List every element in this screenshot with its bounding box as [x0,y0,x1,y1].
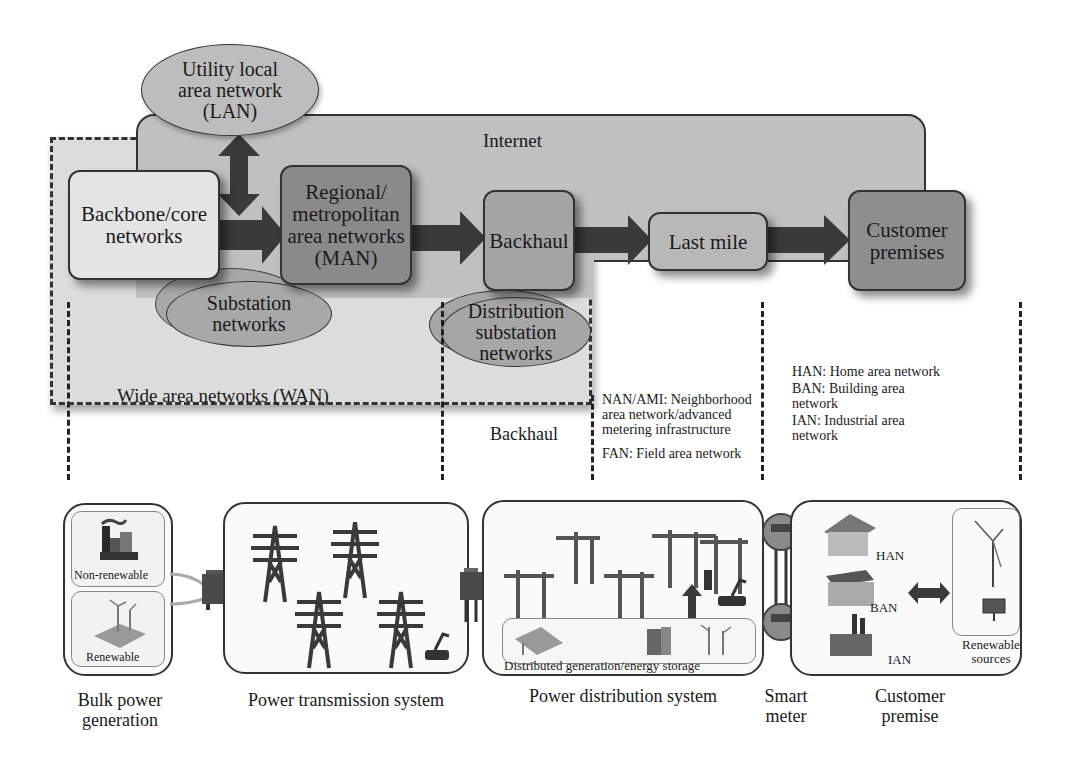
non-renewable-label: Non-renewable [74,568,148,583]
renewable-panel: Renewable [71,591,165,667]
distribution-panel: Distributed generation/energy storage [482,500,764,676]
utility-lan-ellipse: Utility local area network (LAN) [141,44,319,136]
storage-label: Distributed generation/energy storage [504,658,700,674]
renewable-sources-label: Renewable sources [956,638,1026,666]
arrow-right-icon [568,213,654,267]
han-note: HAN: Home area network [792,364,972,379]
backbone-core-node: Backbone/core networks [68,170,220,280]
distribution-substation-ellipse: Distribution substation networks [441,297,591,367]
nan-ami-note: NAN/AMI: Neighborhood area network/advan… [602,392,762,437]
han-label: HAN [876,548,904,564]
last-mile-node: Last mile [648,212,768,271]
arrow-right-icon [404,208,488,268]
backhaul-node: Backhaul [483,190,575,291]
backhaul-label: Backhaul [489,230,568,252]
factory-icon [98,518,138,560]
arrow-up-down-icon [216,134,262,216]
distribution-caption: Power distribution system [508,686,738,706]
wan-label: Wide area networks (WAN) [117,385,329,407]
ban-note: BAN: Building area network [792,381,912,411]
arrow-left-right-icon [908,582,950,604]
customer-premise-caption: Customer premise [850,686,970,726]
transmission-caption: Power transmission system [218,690,474,710]
customer-premises-node: Customer premises [848,190,966,291]
buildings-icon [820,510,880,660]
internet-label: Internet [483,130,542,152]
ban-label: BAN [870,600,897,616]
renewable-sources-panel [952,508,1020,636]
bulk-generation-caption: Bulk power generation [60,690,180,730]
ian-note: IAN: Industrial area network [792,413,912,443]
distributed-generation-icons [511,621,751,661]
backbone-core-label: Backbone/core networks [74,203,214,247]
divider-dashed [591,395,594,480]
distribution-poles-icon [504,514,754,619]
last-mile-label: Last mile [669,231,748,253]
ian-label: IAN [888,652,911,668]
transformer-icon [170,560,226,630]
customer-premise-panel: HAN BAN IAN Renewable sources [790,500,1022,676]
substation-networks-ellipse: Substation networks [166,281,332,347]
smart-meter-caption: Smart meter [756,686,816,726]
divider-dashed [441,302,444,480]
arrow-right-icon [762,213,852,267]
non-renewable-panel: Non-renewable [71,511,165,587]
backhaul-section-label: Backhaul [490,424,558,445]
man-label: Regional/ metropolitan area networks (MA… [283,181,409,269]
substation-networks-label: Substation networks [194,293,304,335]
renewable-label: Renewable [86,650,139,665]
customer-premises-label: Customer premises [857,219,957,263]
divider-dashed [1019,302,1022,480]
wind-solar-icon [90,598,150,648]
bulk-generation-panel: Non-renewable Renewable [63,503,173,676]
transmission-panel [223,502,469,674]
divider-dashed [67,302,70,480]
transmission-towers-icon [243,522,453,672]
distribution-substation-label: Distribution substation networks [461,301,571,364]
man-node: Regional/ metropolitan area networks (MA… [280,165,412,285]
utility-lan-label: Utility local area network (LAN) [165,59,295,122]
fan-note: FAN: Field area network [602,446,762,461]
wind-turbine-solar-icon [961,515,1013,625]
